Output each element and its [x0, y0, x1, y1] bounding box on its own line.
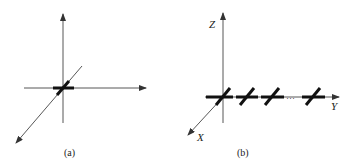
ellipsis: ··· — [286, 93, 295, 103]
caption-a: (a) — [64, 147, 75, 159]
y-axis-label: Y — [331, 100, 339, 112]
panel-a: (a) — [16, 14, 146, 159]
z-axis-label: Z — [209, 18, 216, 30]
element-2 — [236, 88, 258, 105]
element-3 — [261, 88, 284, 105]
diagonal-axis-a — [16, 66, 82, 143]
panel-b: Z Y X ··· (b) — [188, 13, 339, 159]
caption-b: (b) — [237, 147, 249, 159]
element-4 — [302, 88, 325, 105]
x-axis-label: X — [196, 131, 205, 143]
element-1 — [206, 88, 233, 105]
figure: (a) Z Y X ··· (b) — [0, 0, 349, 166]
